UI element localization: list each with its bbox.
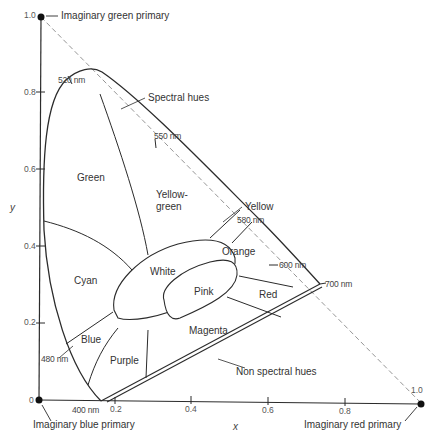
wavelength-600: 600 nm [279, 261, 306, 270]
region-red: Red [259, 290, 277, 300]
wavelength-520: 520 nm [58, 76, 85, 85]
y-axis [39, 17, 41, 400]
region-yellow-green-2: green [156, 202, 182, 212]
yellow-label: Yellow [245, 202, 274, 212]
region-white: White [150, 267, 176, 277]
blue-primary-dot [36, 397, 43, 404]
x-tick-0-8: 0.8 [339, 407, 351, 416]
region-orange: Orange [222, 247, 255, 257]
wavelength-480: 480 nm [41, 355, 68, 364]
y-tick-0-8: 0.8 [24, 88, 36, 97]
region-pink: Pink [194, 287, 213, 297]
blue-primary-label: Imaginary blue primary [33, 420, 135, 430]
nonspectral-hues-label: Non spectral hues [236, 367, 317, 377]
x-tick-1-0: 1.0 [411, 386, 423, 395]
primary-pointers [42, 16, 417, 421]
primary-triangle-edge [41, 17, 421, 403]
wavelength-400: 400 nm [72, 406, 99, 415]
x-tick-0-4: 0.4 [185, 405, 197, 414]
region-magenta: Magenta [189, 326, 228, 336]
region-cyan: Cyan [74, 276, 97, 286]
y-axis-label: y [10, 203, 15, 213]
chromaticity-diagram [0, 0, 435, 441]
y-tick-1-0: 1.0 [24, 11, 36, 20]
region-green: Green [77, 173, 105, 183]
red-primary-label: Imaginary red primary [304, 420, 401, 430]
region-purple: Purple [110, 356, 139, 366]
y-tick-0-6: 0.6 [24, 165, 36, 174]
x-tick-0-2: 0.2 [110, 405, 122, 414]
red-primary-dot [418, 401, 425, 408]
spectral-hues-label: Spectral hues [148, 93, 209, 103]
x-axis [39, 400, 421, 404]
y-tick-0: 0 [29, 396, 34, 405]
x-axis-label: x [233, 422, 238, 432]
wavelength-700: 700 nm [325, 280, 352, 289]
axes [39, 17, 421, 404]
wavelength-580: 580 nm [237, 216, 264, 225]
wavelength-550: 550 nm [154, 132, 181, 141]
x-tick-0-6: 0.6 [262, 406, 274, 415]
y-tick-0-4: 0.4 [24, 242, 36, 251]
region-yellow-green-1: Yellow- [156, 190, 188, 200]
green-primary-dot [38, 14, 45, 21]
region-blue: Blue [81, 335, 101, 345]
green-primary-label: Imaginary green primary [61, 11, 169, 21]
y-tick-0-2: 0.2 [24, 318, 36, 327]
